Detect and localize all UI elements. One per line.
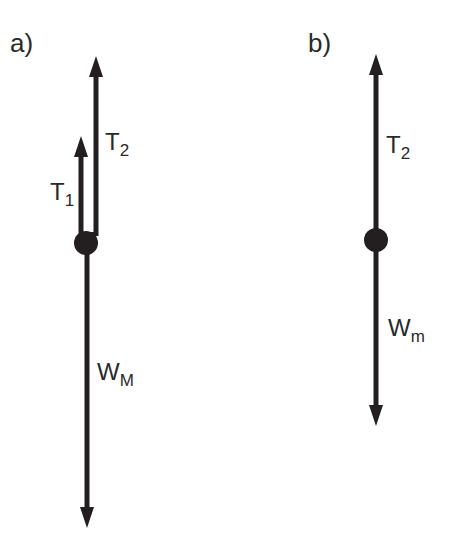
- panel-b-label: b): [308, 30, 331, 56]
- wm-arrowhead-a: [80, 507, 94, 528]
- wm-arrowhead-b: [369, 405, 383, 426]
- free-body-diagrams: a) T1 T2 WM b) T2 Wm: [0, 0, 456, 552]
- diagram-graphics: [0, 0, 456, 552]
- force-label-wm-a: WM: [97, 360, 134, 389]
- panel-a-label: a): [10, 30, 33, 56]
- force-label-t1-a: T1: [50, 180, 74, 209]
- force-label-t2-b: T2: [386, 133, 410, 162]
- force-label-wm-b: Wm: [388, 316, 425, 345]
- t2-arrowhead-a: [89, 56, 103, 77]
- t2-arrowhead-b: [369, 54, 383, 75]
- force-label-t2-a: T2: [105, 130, 129, 159]
- t1-arrowhead-a: [74, 136, 88, 157]
